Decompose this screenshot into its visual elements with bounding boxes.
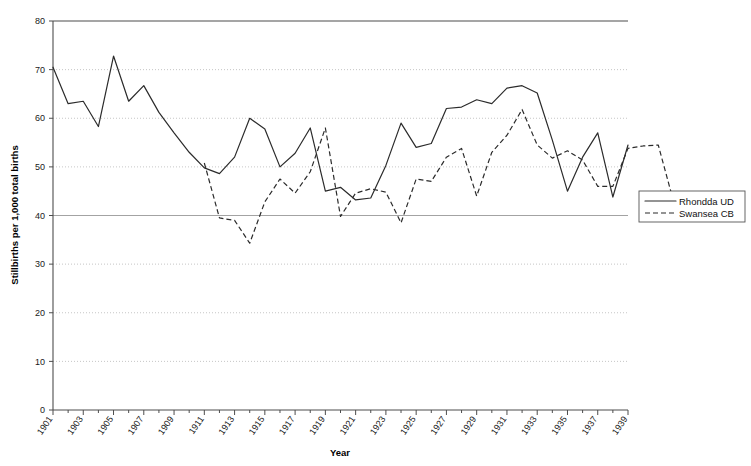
x-tick-label-1937: 1937 (580, 414, 600, 436)
y-tick-label-30: 30 (35, 259, 45, 269)
y-tick-label-50: 50 (35, 162, 45, 172)
legend-label-swansea-cb: Swansea CB (679, 208, 734, 219)
x-tick-label-1915: 1915 (247, 414, 267, 436)
x-axis-ticks: 1901190319051907190919111913191519171919… (35, 410, 630, 437)
x-tick-label-1917: 1917 (277, 414, 297, 436)
y-tick-label-10: 10 (35, 357, 45, 367)
y-tick-label-70: 70 (35, 65, 45, 75)
chart-legend[interactable]: Rhondda UD Swansea CB (639, 191, 745, 222)
x-tick-label-1913: 1913 (217, 414, 237, 436)
x-tick-label-1933: 1933 (519, 414, 539, 436)
y-tick-label-80: 80 (35, 16, 45, 26)
y-axis-ticks: 01020304050607080 (35, 16, 53, 415)
x-tick-label-1905: 1905 (95, 414, 115, 436)
x-tick-label-1919: 1919 (307, 414, 327, 436)
x-axis-title: Year (330, 447, 350, 458)
x-tick-label-1927: 1927 (428, 414, 448, 436)
x-tick-label-1929: 1929 (459, 414, 479, 436)
x-tick-label-1901: 1901 (35, 414, 55, 436)
y-tick-label-40: 40 (35, 211, 45, 221)
x-axis-title-group: Year (330, 447, 350, 458)
y-axis-title: Stillbirths per 1,000 total births (9, 145, 20, 284)
series-line-rhondda-ud (53, 56, 628, 200)
y-tick-label-20: 20 (35, 308, 45, 318)
y-tick-label-60: 60 (35, 113, 45, 123)
stillbirths-line-chart: 01020304050607080 1901190319051907190919… (0, 0, 751, 466)
y-axis-title-group: Stillbirths per 1,000 total births (9, 145, 20, 284)
x-tick-label-1935: 1935 (549, 414, 569, 436)
x-tick-label-1931: 1931 (489, 414, 509, 436)
chart-canvas: 01020304050607080 1901190319051907190919… (0, 0, 751, 466)
x-tick-label-1925: 1925 (398, 414, 418, 436)
x-tick-label-1907: 1907 (126, 414, 146, 436)
x-tick-label-1939: 1939 (610, 414, 630, 436)
x-tick-label-1903: 1903 (65, 414, 85, 436)
y-tick-label-0: 0 (40, 405, 45, 415)
series-line-swansea-cb (204, 110, 673, 244)
x-tick-label-1909: 1909 (156, 414, 176, 436)
x-tick-label-1921: 1921 (338, 414, 358, 436)
x-tick-label-1911: 1911 (187, 414, 206, 436)
legend-label-rhondda-ud: Rhondda UD (679, 196, 734, 207)
x-tick-label-1923: 1923 (368, 414, 388, 436)
